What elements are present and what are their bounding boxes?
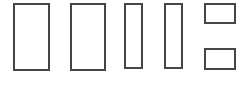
rectangle-5-bottom bbox=[204, 48, 236, 70]
rectangle-5-top bbox=[204, 3, 236, 24]
rectangle-4 bbox=[164, 3, 183, 69]
rectangle-3 bbox=[124, 3, 143, 69]
figure-canvas bbox=[0, 0, 248, 85]
rectangle-2 bbox=[70, 3, 106, 71]
rectangle-1 bbox=[13, 3, 50, 71]
